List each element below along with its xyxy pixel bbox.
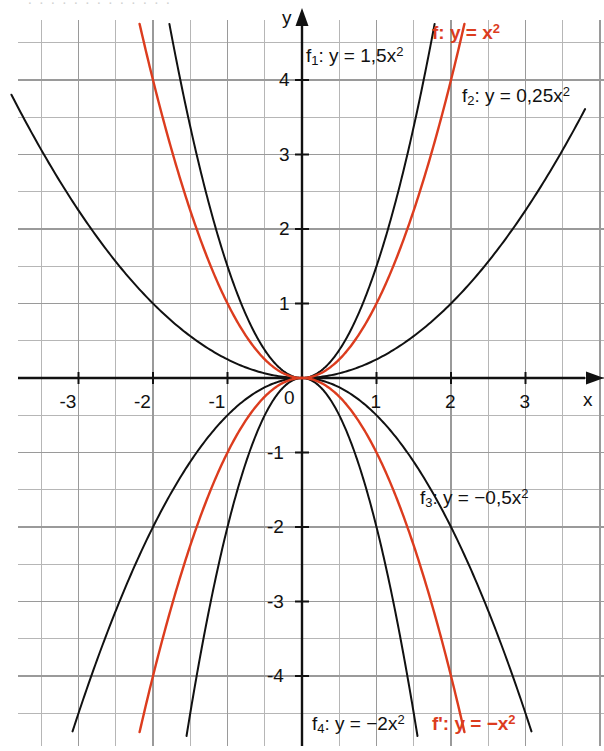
x-tick-label-neg1: -1 [209,392,226,411]
x-tick-label-2: 2 [445,392,456,411]
label-f3-equation: : y = −0,5x [433,487,522,508]
origin-label: 0 [284,388,295,407]
page-bleed-artifact: . . . . . . . . . . . . . [0,0,604,11]
label-f4-equation: : y = −2x [325,713,398,734]
page-bleed-text: . . . . . . . . . . . . . [28,0,172,8]
coordinate-plot [0,0,604,751]
label-f3: f3: y = −0,5x2 [420,487,528,509]
x-tick-label-1: 1 [371,392,382,411]
y-axis-label: y [282,8,292,27]
label-f2-subscript: 2 [467,93,474,108]
label-f-prime: f': y = −x2 [432,713,516,733]
x-tick-label-neg2: -2 [134,392,151,411]
label-f-equation: : y = x [438,22,492,43]
y-tick-label-neg3: -3 [267,592,284,611]
label-f3-exponent: 2 [521,486,528,501]
label-f2-equation: : y = 0,25x [475,85,563,106]
x-tick-label-3: 3 [520,392,531,411]
y-tick-label-1: 1 [279,294,290,313]
label-f1-exponent: 2 [396,44,403,59]
label-f4-exponent: 2 [397,712,404,727]
label-f1-subscript: 1 [311,53,318,68]
label-f-prime-equation: : y = −x [443,713,509,734]
parabola-curves [11,24,585,736]
y-tick-label-2: 2 [279,219,290,238]
label-f-prime-name: f' [432,713,443,734]
label-f1: f1: y = 1,5x2 [306,45,403,67]
label-f2-exponent: 2 [563,84,570,99]
label-f-exponent: 2 [493,21,500,36]
label-f1-equation: : y = 1,5x [319,45,397,66]
y-tick-label-neg2: -2 [267,517,284,536]
graph-canvas: . . . . . . . . . . . . . y x -3-2-11230… [0,0,604,751]
label-f4-subscript: 4 [317,721,324,736]
y-tick-label-3: 3 [279,145,290,164]
label-f3-subscript: 3 [425,495,432,510]
x-tick-label-neg3: -3 [60,392,77,411]
label-f2: f2: y = 0,25x2 [462,85,570,107]
y-tick-label-neg1: -1 [267,443,284,462]
label-f: f: y = x2 [432,22,500,42]
y-tick-label-4: 4 [279,70,290,89]
y-tick-label-neg4: -4 [267,666,284,685]
label-f4: f4: y = −2x2 [312,713,405,735]
label-f-prime-exponent: 2 [508,712,515,727]
curve-pos-0p25 [11,95,585,378]
x-axis-label: x [583,390,593,409]
